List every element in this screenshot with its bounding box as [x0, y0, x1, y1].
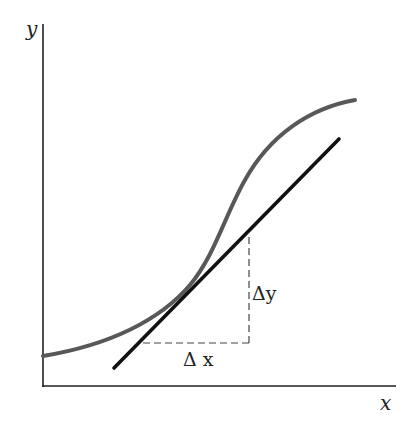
delta-x-label: Δ x — [183, 348, 214, 370]
tangent-line — [114, 139, 339, 368]
tangent-diagram: y x Δy Δ x — [0, 0, 414, 426]
x-axis-label: x — [380, 391, 391, 415]
delta-y-label: Δy — [252, 282, 277, 304]
curve — [43, 100, 355, 356]
y-axis-label: y — [25, 17, 38, 41]
